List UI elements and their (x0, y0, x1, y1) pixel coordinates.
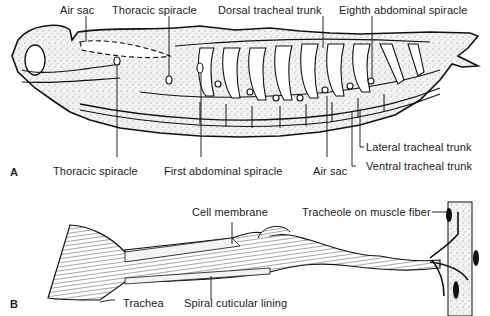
label-lateral-tracheal-trunk: Lateral tracheal trunk (366, 141, 472, 153)
trachea-section (48, 225, 440, 300)
label-air-sac-top: Air sac (60, 4, 94, 16)
label-ventral-tracheal-trunk: Ventral tracheal trunk (366, 160, 472, 172)
panel-a-letter: A (10, 166, 18, 178)
label-dorsal-tracheal-trunk: Dorsal tracheal trunk (218, 4, 322, 16)
label-cell-membrane: Cell membrane (192, 206, 268, 218)
label-first-abdominal-spiracle: First abdominal spiracle (164, 165, 283, 177)
label-spiral-cuticular-lining: Spiral cuticular lining (184, 297, 287, 309)
label-air-sac-bottom: Air sac (313, 165, 347, 177)
label-thoracic-spiracle-top: Thoracic spiracle (112, 4, 197, 16)
label-eighth-abdominal-spiracle: Eighth abdominal spiracle (339, 4, 467, 16)
label-thoracic-spiracle-bottom: Thoracic spiracle (53, 165, 138, 177)
label-tracheole-on-muscle-fiber: Tracheole on muscle fiber (302, 206, 431, 218)
panel-b-letter: B (10, 298, 18, 310)
insect-tracheal-system-illustration (0, 0, 490, 316)
label-trachea: Trachea (123, 297, 164, 309)
